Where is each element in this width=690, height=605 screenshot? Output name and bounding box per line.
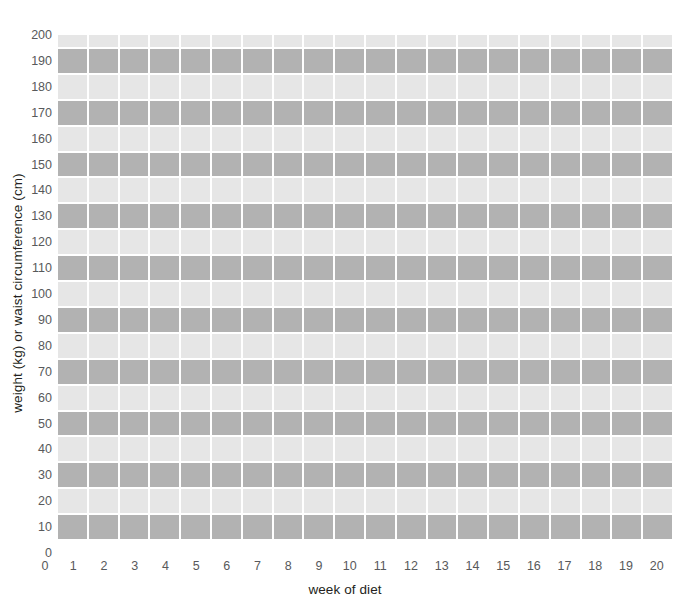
grid-cell <box>643 74 672 100</box>
grid-cell <box>120 462 151 488</box>
grid-cell <box>304 177 335 203</box>
grid-cell <box>643 333 672 359</box>
grid-cell <box>243 385 274 411</box>
grid-cell <box>58 281 89 307</box>
grid-cell <box>551 126 582 152</box>
grid-cell <box>520 307 551 333</box>
grid-cell <box>551 255 582 281</box>
grid-cell <box>150 255 181 281</box>
grid-cell <box>489 359 520 385</box>
grid-cell <box>89 48 120 74</box>
grid-cell <box>304 307 335 333</box>
grid-cell <box>582 385 613 411</box>
grid-cell <box>520 229 551 255</box>
grid-cell <box>612 48 643 74</box>
grid-cell <box>489 74 520 100</box>
x-axis-title: week of diet <box>0 581 690 599</box>
grid-cell <box>366 255 397 281</box>
grid-cell <box>551 152 582 178</box>
grid-cell <box>89 514 120 540</box>
grid-cell <box>612 385 643 411</box>
grid-cell <box>58 177 89 203</box>
grid-cell <box>397 255 428 281</box>
grid-cell <box>366 385 397 411</box>
grid-band-row <box>58 436 672 462</box>
grid-cell <box>458 281 489 307</box>
grid-cell <box>243 203 274 229</box>
grid-line-horizontal <box>58 151 672 153</box>
grid-cell <box>366 488 397 514</box>
grid-cell <box>120 281 151 307</box>
grid-band-row <box>58 48 672 74</box>
grid-cell <box>89 462 120 488</box>
grid-line-horizontal <box>58 202 672 204</box>
grid-cell <box>120 411 151 437</box>
grid-cell <box>366 359 397 385</box>
grid-cell <box>520 177 551 203</box>
grid-band-row <box>58 462 672 488</box>
y-axis-tick-label: 160 <box>6 132 52 145</box>
grid-cell <box>397 436 428 462</box>
grid-cell <box>520 462 551 488</box>
grid-cell <box>181 359 212 385</box>
grid-cell <box>335 48 366 74</box>
grid-cell <box>366 48 397 74</box>
grid-cell <box>181 462 212 488</box>
grid-cell <box>89 385 120 411</box>
grid-line-horizontal <box>58 228 672 230</box>
grid-cell <box>181 74 212 100</box>
grid-cell <box>304 436 335 462</box>
grid-cell <box>397 126 428 152</box>
grid-cell <box>582 126 613 152</box>
grid-cell <box>120 307 151 333</box>
grid-cell <box>243 100 274 126</box>
grid-cell <box>212 203 243 229</box>
grid-cell <box>612 411 643 437</box>
grid-cell <box>397 203 428 229</box>
grid-cell <box>58 229 89 255</box>
y-axis-tick-label: 50 <box>6 417 52 430</box>
grid-cell <box>120 488 151 514</box>
grid-cell <box>612 255 643 281</box>
grid-cell <box>643 385 672 411</box>
grid-cell <box>274 411 305 437</box>
grid-cell <box>551 488 582 514</box>
grid-cell <box>274 74 305 100</box>
grid-cell <box>489 100 520 126</box>
grid-cell <box>243 359 274 385</box>
grid-cell <box>489 462 520 488</box>
grid-cell <box>212 488 243 514</box>
grid-cell <box>458 100 489 126</box>
grid-cell <box>150 359 181 385</box>
grid-cell <box>428 307 459 333</box>
grid-cell <box>181 177 212 203</box>
grid-cell <box>243 48 274 74</box>
grid-line-horizontal <box>58 358 672 360</box>
y-axis-tick-label: 200 <box>6 29 52 42</box>
grid-cell <box>551 74 582 100</box>
grid-cell <box>489 152 520 178</box>
grid-cell <box>274 333 305 359</box>
grid-cell <box>612 359 643 385</box>
grid-cell <box>551 436 582 462</box>
grid-cell <box>274 462 305 488</box>
grid-cell <box>304 74 335 100</box>
grid-cell <box>458 307 489 333</box>
grid-cell <box>643 152 672 178</box>
grid-cell <box>150 281 181 307</box>
grid-cell <box>612 203 643 229</box>
grid-cell <box>458 514 489 540</box>
grid-cell <box>181 281 212 307</box>
grid-cell <box>366 126 397 152</box>
grid-cell <box>274 177 305 203</box>
grid-cell <box>89 333 120 359</box>
grid-cell <box>335 229 366 255</box>
grid-cell <box>428 333 459 359</box>
grid-cell <box>551 411 582 437</box>
grid-cell <box>520 488 551 514</box>
grid-cell <box>520 385 551 411</box>
grid-cell <box>458 488 489 514</box>
grid-cell <box>89 203 120 229</box>
grid-cell <box>335 488 366 514</box>
grid-cell <box>58 74 89 100</box>
